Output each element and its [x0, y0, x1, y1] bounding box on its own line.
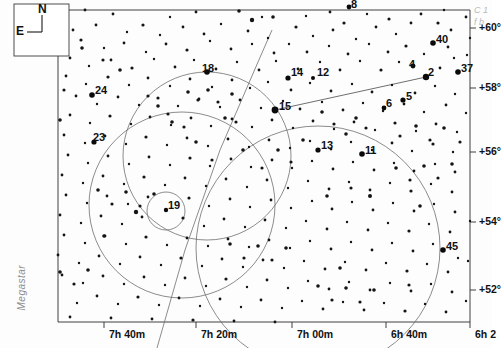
star-label-6: 6	[386, 97, 392, 109]
star-label-2: 2	[428, 66, 434, 78]
star-label-18: 18	[202, 62, 214, 74]
star-label-40: 40	[436, 33, 448, 45]
comet-path-curve	[157, 30, 272, 348]
search-circles	[89, 72, 440, 348]
ra-tick-label-4: 6h 2	[475, 328, 496, 340]
star-label-5: 5	[406, 90, 412, 102]
axis-ticks	[104, 28, 476, 328]
background-stars	[57, 9, 472, 324]
star-label-14: 14	[291, 66, 303, 78]
ra-tick-label-2: 7h 00m	[297, 328, 333, 340]
star-label-24: 24	[95, 84, 107, 96]
labeled-star-points	[89, 5, 461, 253]
star-label-11: 11	[365, 144, 376, 156]
ra-tick-label-1: 7h 20m	[201, 328, 237, 340]
megastar-watermark: Megastar	[16, 241, 27, 311]
ra-tick-label-3: 6h 40m	[391, 328, 427, 340]
compass-north-label: N	[38, 2, 47, 16]
star-label-12: 12	[317, 66, 329, 78]
compass-east-label: E	[16, 24, 24, 38]
star-label-13: 13	[321, 139, 333, 151]
star-label-19: 19	[168, 199, 180, 211]
ra-tick-label-0: 7h 40m	[109, 328, 145, 340]
star-label-15: 15	[279, 100, 291, 112]
dec-tick-label-2: +56°	[479, 145, 501, 157]
star-label-8: 8	[351, 0, 357, 10]
star-label-45: 45	[446, 240, 458, 252]
edge-cutoff-text: C 1 f b	[474, 4, 492, 28]
star-label-23: 23	[93, 131, 105, 143]
star-label-4: 4	[409, 58, 415, 70]
star-label-37: 37	[461, 62, 473, 74]
dec-tick-label-4: +52°	[479, 283, 501, 295]
dec-tick-label-1: +58°	[479, 81, 501, 93]
dec-tick-label-3: +54°	[479, 215, 501, 227]
